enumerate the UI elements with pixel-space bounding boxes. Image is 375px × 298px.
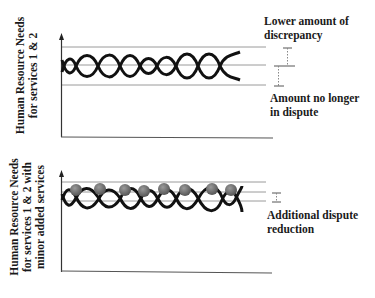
top-y-axis-arrow-icon <box>59 33 64 40</box>
top-x-axis <box>61 137 273 138</box>
bottom-panel <box>59 170 281 273</box>
added-service-circle <box>119 184 131 196</box>
added-service-circle <box>158 183 170 195</box>
discrepancy-range-marker <box>283 48 292 65</box>
added-service-circle <box>206 183 218 195</box>
added-service-circle <box>138 185 150 197</box>
bottom-x-axis <box>61 271 272 273</box>
added-service-circle <box>179 184 191 196</box>
added-service-circle <box>225 184 237 196</box>
added-service-circle <box>70 184 82 196</box>
added-service-circle <box>94 183 106 195</box>
no-longer-in-dispute-range-marker <box>274 66 295 86</box>
top-panel <box>59 33 295 138</box>
additional-dispute-reduction-marker <box>272 193 281 202</box>
bottom-y-axis-arrow-icon <box>59 170 64 177</box>
diagram-canvas <box>0 0 375 298</box>
